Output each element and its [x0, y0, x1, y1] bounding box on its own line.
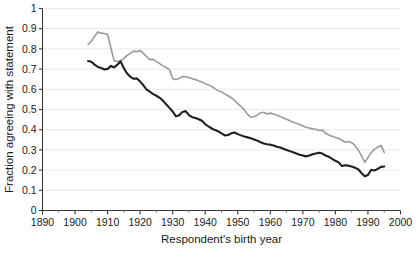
y-tick-label: 0.6 [22, 83, 37, 95]
y-tick-label: 0.3 [22, 144, 37, 156]
chart-figure: 00.10.20.30.40.50.60.70.80.9118901900191… [0, 0, 416, 257]
y-axis-title: Fraction agreeing with statement [3, 25, 15, 193]
y-tick-label: 1 [31, 2, 37, 14]
y-tick-label: 0 [31, 204, 37, 216]
x-tick-label: 1940 [194, 216, 218, 228]
series-group [88, 32, 384, 176]
x-tick-label: 1930 [161, 216, 185, 228]
y-tick-label: 0.1 [22, 184, 37, 196]
gridlines-group [43, 9, 401, 191]
x-tick-label: 1890 [31, 216, 55, 228]
y-tick-label: 0.8 [22, 43, 37, 55]
x-tick-label: 1920 [128, 216, 152, 228]
x-tick-label: 1970 [291, 216, 315, 228]
upper-gray-series [88, 32, 384, 162]
y-tick-label: 0.7 [22, 63, 37, 75]
y-tick-label: 0.4 [22, 123, 37, 135]
y-tick-label: 0.9 [22, 22, 37, 34]
lower-black-series [88, 61, 384, 176]
x-tick-label: 1990 [356, 216, 380, 228]
y-tick-label: 0.2 [22, 164, 37, 176]
y-tick-label: 0.5 [22, 103, 37, 115]
x-axis-title: Respondent's birth year [161, 233, 282, 245]
x-tick-label: 1960 [259, 216, 283, 228]
x-tick-label: 1910 [96, 216, 120, 228]
tick-labels-group: 00.10.20.30.40.50.60.70.80.9118901900191… [22, 2, 412, 227]
line-chart: 00.10.20.30.40.50.60.70.80.9118901900191… [0, 0, 416, 257]
x-tick-label: 1900 [63, 216, 87, 228]
x-tick-label: 1950 [226, 216, 250, 228]
x-tick-label: 1980 [324, 216, 348, 228]
x-tick-label: 2000 [389, 216, 413, 228]
